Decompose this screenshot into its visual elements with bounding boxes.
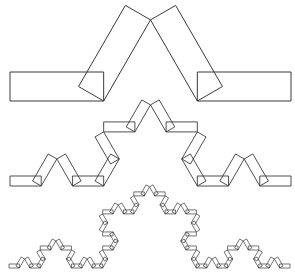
strip-segment [212,257,221,268]
strip-segment [254,250,263,261]
strip-segment [130,196,139,207]
strip-segment [274,257,283,268]
strip-segment [191,221,200,232]
koch-level-3 [9,185,290,268]
strip-segment [110,232,119,243]
strip-segment [191,250,200,261]
strip-segment [99,214,108,225]
strip-segment [110,203,119,214]
strip-segment [224,257,233,268]
strip-segment [10,176,41,186]
strip-segment [224,250,233,261]
strip-segment [110,239,119,250]
strip-segment [166,122,197,132]
strip-segment [244,154,268,186]
strip-segment [220,154,244,186]
strip-segment [126,100,150,132]
strip-segment [203,257,212,268]
strip-segment [99,250,108,261]
koch-level-1 [10,5,291,101]
strip-segment [151,5,223,101]
strip-segment [197,176,228,186]
strip-segment [243,239,252,250]
strip-segment [160,196,169,207]
strip-segment [72,176,103,186]
strip-segment [141,185,150,196]
strip-segment [47,239,56,250]
strip-segment [118,203,127,214]
strip-segment [10,72,104,101]
strip-segment [254,257,263,268]
strip-segment [99,221,108,232]
strip-segment [16,257,25,268]
strip-segment [104,122,135,132]
strip-segment [37,250,46,261]
strip-segment [260,176,291,186]
strip-segment [37,257,46,268]
strip-segment [66,257,75,268]
strip-segment [130,203,139,214]
strip-segment [181,203,190,214]
koch-level-2 [10,100,291,186]
diagram-canvas [0,0,295,279]
strip-segment [181,239,190,250]
strip-segment [172,203,181,214]
strip-segment [191,257,200,268]
strip-segment [87,257,96,268]
strip-segment [33,154,57,186]
strip-segment [191,214,200,225]
strip-segment [181,232,190,243]
strip-segment [235,239,244,250]
strip-segment [99,257,108,268]
strip-segment [57,154,81,186]
strip-segment [78,257,87,268]
strip-segment [150,185,159,196]
strip-segment [25,257,34,268]
strip-segment [197,72,291,101]
strip-segment [79,5,151,101]
strip-segment [151,100,175,132]
strip-segment [160,203,169,214]
strip-segment [266,257,275,268]
strip-segment [56,239,65,250]
strip-segment [66,250,75,261]
